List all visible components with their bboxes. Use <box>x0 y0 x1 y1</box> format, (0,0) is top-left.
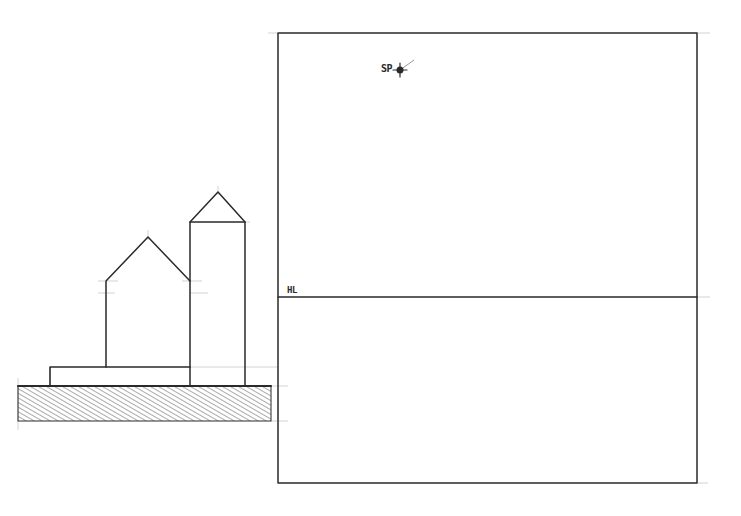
base-slab <box>50 367 190 386</box>
horizon-line-label: HL <box>287 285 297 295</box>
tower-elevation <box>190 222 245 386</box>
station-point-icon <box>393 60 414 77</box>
picture-plane-frame <box>278 33 697 483</box>
house-elevation <box>106 237 190 367</box>
perspective-drawing <box>0 0 741 516</box>
station-point-label: SP <box>381 63 392 74</box>
tower-roof <box>190 192 245 222</box>
ground-section <box>18 386 271 421</box>
